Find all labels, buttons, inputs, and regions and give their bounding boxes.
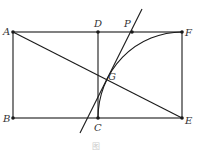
label-C: C bbox=[94, 122, 102, 133]
label-A: A bbox=[2, 26, 10, 37]
point-D bbox=[96, 30, 100, 34]
point-P bbox=[130, 30, 134, 34]
figure-caption: 图 bbox=[92, 142, 100, 150]
label-D: D bbox=[93, 18, 102, 29]
geometry-diagram: A B C D E F G P 图 bbox=[0, 0, 200, 150]
point-B bbox=[11, 116, 15, 120]
point-F bbox=[180, 30, 184, 34]
point-C bbox=[96, 116, 100, 120]
label-F: F bbox=[184, 27, 193, 38]
label-G: G bbox=[108, 71, 116, 82]
label-E: E bbox=[184, 115, 193, 126]
label-P: P bbox=[123, 18, 131, 29]
label-B: B bbox=[2, 113, 10, 124]
point-A bbox=[11, 30, 15, 34]
point-E bbox=[180, 116, 184, 120]
